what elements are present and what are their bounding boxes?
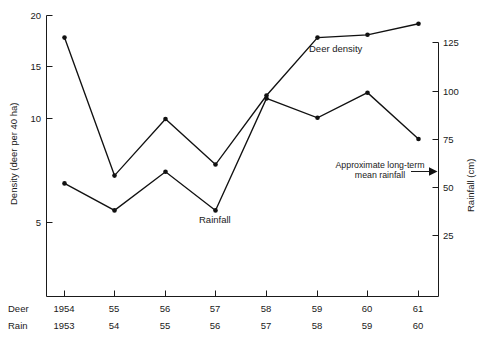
series-line-rainfall [65, 93, 419, 211]
rain-year-5: 58 [312, 320, 323, 331]
left-tick-label-5: 5 [36, 217, 41, 228]
right-axis-title: Rainfall (cm) [465, 159, 476, 212]
right-tick-label-75: 75 [443, 134, 454, 145]
data-point [416, 137, 421, 142]
rainfall-label: Rainfall [199, 214, 231, 225]
row-label-deer: Deer [8, 303, 29, 314]
axes-frame [47, 16, 439, 297]
series-layer [62, 21, 421, 212]
right-tick-label-100: 100 [443, 86, 459, 97]
data-point [365, 33, 370, 38]
data-point [315, 115, 320, 120]
data-point [264, 96, 269, 101]
right-axis-ticks [433, 43, 439, 236]
data-point [112, 208, 117, 213]
deer-year-2: 56 [160, 303, 171, 314]
mean-rainfall-annotation: Approximate long-term mean rainfall [336, 160, 438, 180]
data-point [213, 162, 218, 167]
left-tick-label-15: 15 [30, 61, 41, 72]
data-point [315, 35, 320, 40]
data-point [163, 117, 168, 122]
chart-figure: 20 15 10 5 Density (deer per 40 ha) 125 … [0, 0, 482, 337]
deer-year-1: 55 [109, 303, 120, 314]
rain-year-1: 54 [109, 320, 120, 331]
rain-year-3: 56 [210, 320, 221, 331]
rain-year-0: 1953 [53, 320, 74, 331]
right-tick-label-50: 50 [443, 182, 454, 193]
right-tick-label-125: 125 [443, 37, 459, 48]
row-label-rain: Rain [8, 320, 28, 331]
deer-year-3: 57 [210, 303, 221, 314]
mean-rainfall-arrow-head [429, 167, 438, 176]
rain-year-6: 59 [362, 320, 373, 331]
deer-density-rainfall-chart: 20 15 10 5 Density (deer per 40 ha) 125 … [0, 0, 482, 337]
left-tick-label-20: 20 [30, 10, 41, 21]
deer-density-label: Deer density [309, 43, 363, 54]
x-axis-ticks [65, 291, 419, 297]
left-axis-title: Density (deer per 40 ha) [8, 103, 19, 205]
data-point [365, 90, 370, 95]
left-axis-line [47, 16, 439, 297]
mean-rainfall-annotation-line1: Approximate long-term [336, 160, 425, 170]
rain-year-4: 57 [261, 320, 272, 331]
rain-year-2: 55 [160, 320, 171, 331]
data-point [62, 35, 67, 40]
data-point [112, 173, 117, 178]
data-point [416, 21, 421, 26]
left-axis-ticks [47, 16, 53, 223]
rain-year-labels: 1953 54 55 56 57 58 59 60 [53, 320, 423, 331]
data-point [163, 170, 168, 175]
deer-year-5: 59 [312, 303, 323, 314]
right-axis-tick-labels: 125 100 75 50 25 [443, 37, 459, 241]
deer-year-labels: 1954 55 56 57 58 59 60 61 [53, 303, 423, 314]
deer-year-6: 60 [362, 303, 373, 314]
left-axis-tick-labels: 20 15 10 5 [30, 10, 41, 228]
rain-year-7: 60 [413, 320, 424, 331]
data-point [213, 208, 218, 213]
data-point [62, 181, 67, 186]
mean-rainfall-annotation-line2: mean rainfall [355, 170, 405, 180]
left-tick-label-10: 10 [30, 113, 41, 124]
deer-year-4: 58 [261, 303, 272, 314]
deer-year-0: 1954 [53, 303, 74, 314]
right-tick-label-25: 25 [443, 230, 454, 241]
deer-year-7: 61 [413, 303, 424, 314]
